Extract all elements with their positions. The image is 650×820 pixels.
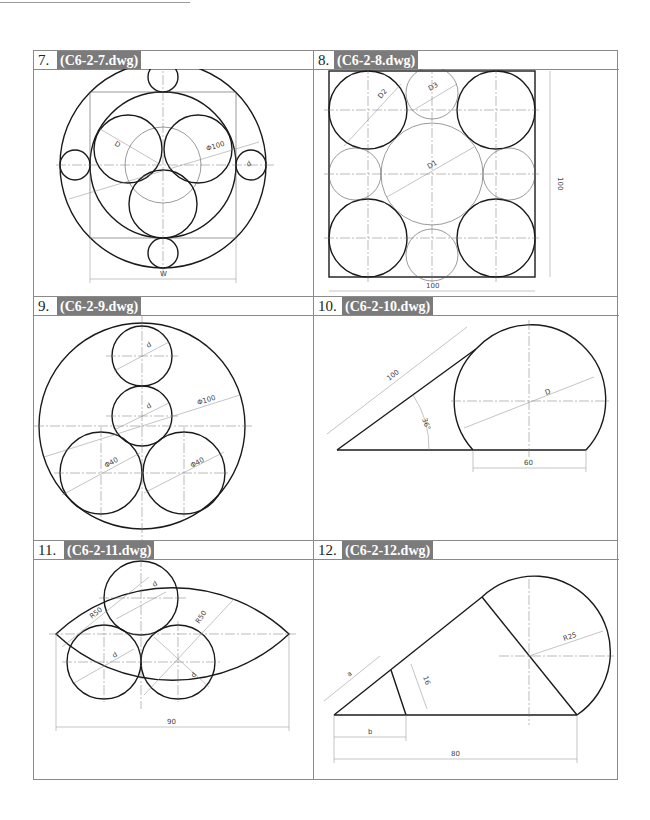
drawing-7-circles: D Φ100 d W — [34, 69, 313, 296]
dwg-file-tag: (C6-2-8.dwg) — [334, 51, 418, 69]
dim-b: b — [368, 728, 373, 736]
dim-angle-36: 36° — [420, 417, 432, 431]
dim-a: a — [345, 670, 353, 679]
dim-D: D — [113, 140, 122, 150]
exercise-header: 8. (C6-2-8.dwg) — [314, 51, 619, 70]
dwg-file-tag: (C6-2-11.dwg) — [64, 541, 154, 559]
dim-length-100: 100 — [385, 368, 400, 382]
dim-height-100: 100 — [556, 177, 564, 190]
exercise-header: 11. (C6-2-11.dwg) — [34, 541, 313, 560]
dwg-file-tag: (C6-2-10.dwg) — [342, 297, 433, 315]
drawing-11-lens-circles: R50 R50 d d d 90 — [34, 559, 313, 781]
dim-16: 16 — [421, 675, 432, 687]
exercise-11: 11. (C6-2-11.dwg) R50 R50 d d — [34, 541, 313, 781]
dim-width-100: 100 — [426, 282, 439, 290]
drawing-10-incline-circle: 100 36° D 60 — [314, 315, 619, 540]
dim-W: W — [160, 270, 167, 278]
exercise-10: 10. (C6-2-10.dwg) 100 36° D 60 — [314, 297, 619, 540]
exercise-sheet: 7. (C6-2-7.dwg) D Φ100 d W — [33, 50, 618, 780]
dim-80: 80 — [451, 750, 460, 758]
page-top-rule — [0, 2, 190, 3]
drawing-9-circles: d d Φ100 Φ40 Φ40 — [34, 315, 313, 540]
exercise-8: 8. (C6-2-8.dwg) D2 D3 — [314, 51, 619, 296]
drawing-12-triangle-arc: a 16 b R25 80 — [314, 559, 619, 781]
dim-diameter-40-right: Φ40 — [189, 456, 205, 470]
exercise-9: 9. (C6-2-9.dwg) d d Φ100 Φ40 Φ40 — [34, 297, 313, 540]
dim-60: 60 — [524, 459, 533, 467]
exercise-number: 11. — [38, 542, 56, 559]
exercise-7: 7. (C6-2-7.dwg) D Φ100 d W — [34, 51, 313, 296]
exercise-header: 12. (C6-2-12.dwg) — [314, 541, 619, 560]
drawing-8-square-circles: D2 D3 D1 100 100 — [314, 69, 619, 296]
exercise-number: 12. — [318, 542, 337, 559]
exercise-number: 9. — [38, 298, 49, 315]
exercise-12: 12. (C6-2-12.dwg) a 16 b R25 80 — [314, 541, 619, 781]
exercise-header: 9. (C6-2-9.dwg) — [34, 297, 313, 316]
dim-90: 90 — [167, 718, 176, 726]
dwg-file-tag: (C6-2-7.dwg) — [57, 51, 141, 69]
dim-R25: R25 — [562, 631, 578, 643]
dim-d: d — [245, 160, 253, 169]
dim-D3: D3 — [427, 81, 440, 93]
dwg-file-tag: (C6-2-12.dwg) — [342, 541, 433, 559]
exercise-number: 10. — [318, 298, 337, 315]
dim-d-top: d — [151, 580, 159, 589]
exercise-header: 10. (C6-2-10.dwg) — [314, 297, 619, 316]
dim-diameter-40-left: Φ40 — [103, 456, 119, 470]
dim-D2: D2 — [376, 88, 388, 101]
dwg-file-tag: (C6-2-9.dwg) — [57, 297, 141, 315]
dim-D1: D1 — [426, 159, 439, 171]
dim-diameter-100: Φ100 — [205, 140, 225, 153]
dim-d-middle: d — [145, 402, 153, 411]
exercise-number: 8. — [318, 52, 329, 69]
dim-diameter-100: Φ100 — [196, 394, 216, 407]
dim-d-top: d — [145, 341, 153, 350]
dim-D: D — [544, 388, 552, 397]
exercise-number: 7. — [38, 52, 49, 69]
exercise-header: 7. (C6-2-7.dwg) — [34, 51, 313, 70]
dim-R50-right: R50 — [194, 609, 208, 625]
